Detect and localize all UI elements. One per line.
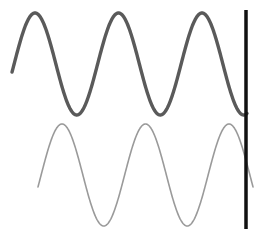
waveform-canvas [0,0,259,241]
chart-background [0,0,259,241]
waveform-figure [0,0,259,241]
